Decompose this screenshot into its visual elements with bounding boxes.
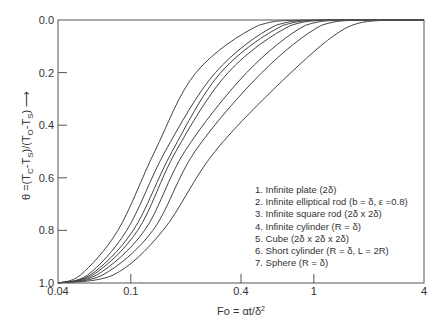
legend: 1. Infinite plate (2δ)2. Infinite ellipt… [255,184,408,268]
y-tick-label: 0.8 [39,224,54,236]
legend-item: 2. Infinite elliptical rod (b = δ, ε =0.… [255,196,408,207]
chart-canvas: 0.00.20.40.60.81.0 0.040.10.414 1. Infin… [0,0,445,331]
x-tick-label: 4 [421,285,427,297]
x-axis-title: Fo = αt/δ2 [217,305,265,317]
y-tick-label: 0.0 [39,14,54,26]
legend-item: 4. Infinite cylinder (R = δ) [255,221,361,232]
data-curves [58,20,424,283]
y-axis-ticks: 0.00.20.40.60.81.0 [39,14,67,289]
legend-item: 7. Sphere (R = δ) [255,257,328,268]
legend-item: 1. Infinite plate (2δ) [255,184,336,195]
y-axis-title: θ =(TC-TS)/(TO-TS) ⟶ [20,91,35,200]
x-tick-label: 0.04 [47,285,68,297]
x-tick-label: 0.4 [233,285,248,297]
y-tick-label: 0.2 [39,67,54,79]
y-tick-label: 0.4 [39,119,54,131]
x-tick-label: 1 [311,285,317,297]
legend-item: 6. Short cylinder (R = δ, L = 2R) [255,245,389,256]
curve-series-4 [58,20,424,283]
x-axis-ticks: 0.040.10.414 [47,274,427,297]
svg-text:θ =(TC-TS)/(TO-TS) ⟶: θ =(TC-TS)/(TO-TS) ⟶ [20,91,35,200]
x-tick-label: 0.1 [123,285,138,297]
y-tick-label: 0.6 [39,172,54,184]
legend-item: 5. Cube (2δ x 2δ x 2δ) [255,233,349,244]
legend-item: 3. Infinite square rod (2δ x 2δ) [255,208,382,219]
